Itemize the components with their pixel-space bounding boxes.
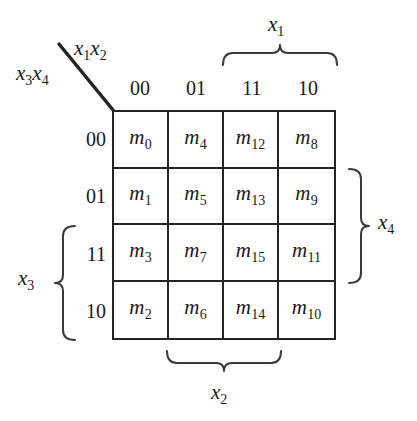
minterm-symbol: m xyxy=(184,295,199,319)
kmap-cell-r3c0[interactable]: m2 xyxy=(114,282,169,339)
minterm-subscript: 4 xyxy=(200,137,207,152)
kmap-cell-r1c1[interactable]: m5 xyxy=(169,169,224,226)
column-header-0: 00 xyxy=(112,78,168,98)
minterm-symbol: m xyxy=(129,295,144,319)
kmap-cell-r0c1[interactable]: m4 xyxy=(169,112,224,169)
minterm-symbol: m xyxy=(184,181,199,205)
brace-label-x4: x4 xyxy=(378,212,394,237)
minterm-symbol: m xyxy=(129,125,144,149)
minterm-label: m11 xyxy=(292,240,321,265)
minterm-label: m5 xyxy=(184,183,207,208)
minterm-symbol: m xyxy=(295,125,310,149)
minterm-subscript: 3 xyxy=(145,250,152,265)
kmap-cell-r2c2[interactable]: m15 xyxy=(224,225,279,282)
minterm-symbol: m xyxy=(236,238,251,262)
column-header-3: 10 xyxy=(280,78,336,98)
minterm-label: m13 xyxy=(236,183,266,208)
minterm-symbol: m xyxy=(292,238,307,262)
kmap-cell-r2c3[interactable]: m11 xyxy=(279,225,334,282)
minterm-symbol: m xyxy=(292,295,307,319)
minterm-label: m15 xyxy=(236,240,266,265)
kmap-cell-r2c1[interactable]: m7 xyxy=(169,225,224,282)
minterm-label: m12 xyxy=(236,127,266,152)
kmap-cell-r1c0[interactable]: m1 xyxy=(114,169,169,226)
minterm-subscript: 13 xyxy=(251,193,265,208)
minterm-subscript: 14 xyxy=(251,307,265,322)
column-header-2: 11 xyxy=(224,78,280,98)
brace-x4 xyxy=(348,168,370,284)
minterm-symbol: m xyxy=(295,181,310,205)
kmap-cell-r2c0[interactable]: m3 xyxy=(114,225,169,282)
minterm-label: m14 xyxy=(236,297,266,322)
corner-x2-var: x xyxy=(90,36,99,60)
minterm-label: m3 xyxy=(129,240,152,265)
brace-label-x2: x2 xyxy=(211,382,227,407)
kmap-cell-r0c2[interactable]: m12 xyxy=(224,112,279,169)
brace-x3-var: x xyxy=(18,266,27,290)
corner-label-x1x2: x1x2 xyxy=(74,38,107,63)
kmap-cell-r1c2[interactable]: m13 xyxy=(224,169,279,226)
minterm-label: m7 xyxy=(184,240,207,265)
minterm-subscript: 8 xyxy=(311,137,318,152)
brace-label-x3: x3 xyxy=(18,268,34,293)
minterm-label: m4 xyxy=(184,127,207,152)
minterm-subscript: 5 xyxy=(200,193,207,208)
minterm-label: m6 xyxy=(184,297,207,322)
minterm-subscript: 9 xyxy=(311,193,318,208)
minterm-label: m2 xyxy=(129,297,152,322)
minterm-symbol: m xyxy=(236,125,251,149)
corner-label-x3x4: x3x4 xyxy=(16,63,49,88)
row-header-1: 01 xyxy=(66,168,106,226)
minterm-subscript: 12 xyxy=(251,137,265,152)
minterm-label: m10 xyxy=(292,297,322,322)
minterm-label: m0 xyxy=(129,127,152,152)
brace-x2-var: x xyxy=(211,380,220,404)
brace-x2-sub: 2 xyxy=(220,392,227,407)
row-header-0: 00 xyxy=(66,110,106,168)
minterm-symbol: m xyxy=(236,295,251,319)
minterm-symbol: m xyxy=(184,125,199,149)
corner-x4-var: x xyxy=(32,61,41,85)
brace-x3-sub: 3 xyxy=(27,278,34,293)
minterm-symbol: m xyxy=(129,238,144,262)
minterm-subscript: 15 xyxy=(251,250,265,265)
minterm-subscript: 10 xyxy=(307,307,321,322)
kmap-cell-r3c3[interactable]: m10 xyxy=(279,282,334,339)
kmap-cell-grid: m0 m4 m12 m8 m1 m5 m13 m9 m3 m7 m15 m11 … xyxy=(112,110,336,340)
brace-x4-var: x xyxy=(378,210,387,234)
row-header-2: 11 xyxy=(66,225,106,283)
minterm-label: m1 xyxy=(129,183,152,208)
minterm-subscript: 6 xyxy=(200,307,207,322)
minterm-subscript: 11 xyxy=(308,250,321,265)
minterm-subscript: 0 xyxy=(145,137,152,152)
kmap-cell-r3c2[interactable]: m14 xyxy=(224,282,279,339)
corner-x3-var: x xyxy=(16,61,25,85)
brace-label-x1: x1 xyxy=(268,14,284,39)
brace-x1-sub: 1 xyxy=(277,24,284,39)
kmap-cell-r0c0[interactable]: m0 xyxy=(114,112,169,169)
karnaugh-map-diagram: x1x2 x3x4 00 01 11 10 00 01 11 10 m0 m4 … xyxy=(0,0,417,421)
column-header-1: 01 xyxy=(168,78,224,98)
minterm-label: m8 xyxy=(295,127,318,152)
corner-x4-sub: 4 xyxy=(42,73,49,88)
brace-x2 xyxy=(166,350,282,372)
minterm-subscript: 1 xyxy=(145,193,152,208)
minterm-symbol: m xyxy=(236,181,251,205)
minterm-subscript: 7 xyxy=(200,250,207,265)
minterm-symbol: m xyxy=(129,181,144,205)
kmap-cell-r3c1[interactable]: m6 xyxy=(169,282,224,339)
brace-x1 xyxy=(222,44,338,66)
kmap-cell-r0c3[interactable]: m8 xyxy=(279,112,334,169)
corner-x1-var: x xyxy=(74,36,83,60)
kmap-cell-r1c3[interactable]: m9 xyxy=(279,169,334,226)
brace-x4-sub: 4 xyxy=(387,222,394,237)
minterm-label: m9 xyxy=(295,183,318,208)
minterm-symbol: m xyxy=(184,238,199,262)
corner-x2-sub: 2 xyxy=(100,48,107,63)
row-header-3: 10 xyxy=(66,283,106,341)
brace-x1-var: x xyxy=(268,12,277,36)
minterm-subscript: 2 xyxy=(145,307,152,322)
